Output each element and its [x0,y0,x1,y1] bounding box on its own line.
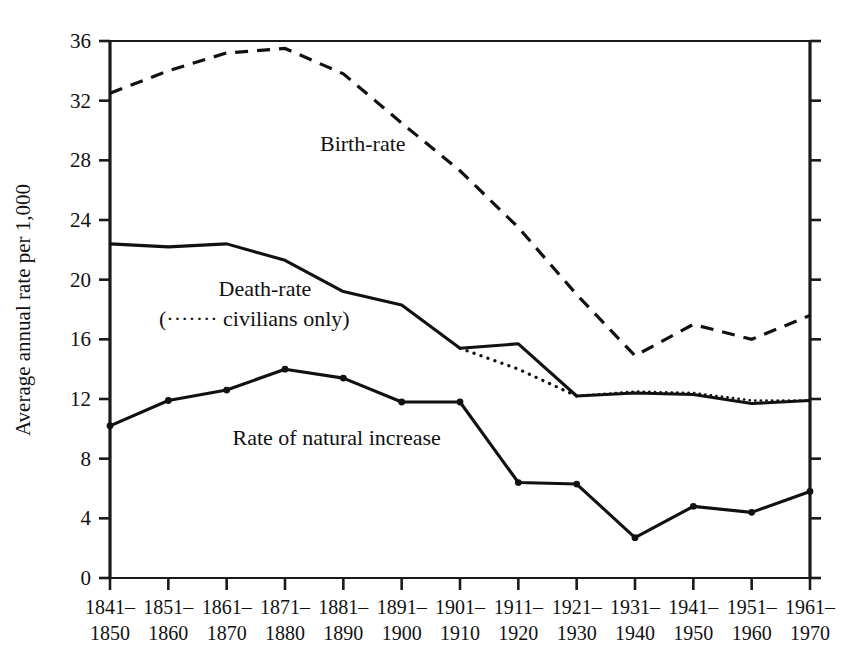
data-point-marker [515,479,522,486]
y-tick-label: 36 [70,29,91,53]
x-tick-label: 1951–1960 [727,596,778,644]
data-point-marker [690,503,697,510]
series-line [460,348,577,396]
x-tick-label: 1871–1880 [260,596,311,644]
data-point-marker [282,366,289,373]
data-point-marker [748,509,755,516]
x-tick-label: 1921–1930 [552,596,603,644]
data-point-marker [165,397,172,404]
x-tick-label: 1881–1890 [318,596,369,644]
x-axis-tick-labels: 1841–18501851–18601861–18701871–18801881… [85,596,836,644]
x-tick-label: 1961–1970 [785,596,836,644]
y-tick-label: 32 [70,89,91,113]
data-point-marker [573,481,580,488]
y-tick-label: 12 [70,387,91,411]
series-annotation: Death-rate [219,276,312,301]
y-tick-label: 28 [70,148,91,172]
series-annotation: Rate of natural increase [233,425,441,450]
population-rates-line-chart: 04812162024283236 1841–18501851–18601861… [0,0,865,663]
y-tick-label: 16 [70,327,91,351]
x-tick-label: 1911–1920 [494,596,544,644]
data-point-marker [340,375,347,382]
x-tick-label: 1901–1910 [435,596,486,644]
data-point-marker [398,399,405,406]
y-tick-label: 8 [81,447,92,471]
x-tick-label: 1931–1940 [610,596,661,644]
data-point-marker [457,399,464,406]
y-axis-tick-labels: 04812162024283236 [70,29,92,590]
data-point-marker [807,488,814,495]
data-series-layer [107,48,814,541]
y-tick-label: 4 [81,506,92,530]
y-axis-title: Average annual rate per 1,000 [11,184,35,436]
data-point-marker [107,422,114,429]
y-tick-label: 24 [70,208,92,232]
chart-page: 04812162024283236 1841–18501851–18601861… [0,0,865,663]
x-tick-label: 1941–1950 [668,596,719,644]
x-tick-label: 1861–1870 [202,596,253,644]
series-annotation: (······· civilians only) [159,306,350,331]
y-tick-label: 0 [81,566,92,590]
x-tick-label: 1891–1900 [377,596,428,644]
x-axis-ticks [110,578,810,590]
x-tick-label: 1841–1850 [85,596,136,644]
data-point-marker [223,387,230,394]
data-point-marker [632,534,639,541]
x-tick-label: 1851–1860 [143,596,194,644]
series-annotation: Birth-rate [320,131,406,156]
y-tick-label: 20 [70,268,91,292]
